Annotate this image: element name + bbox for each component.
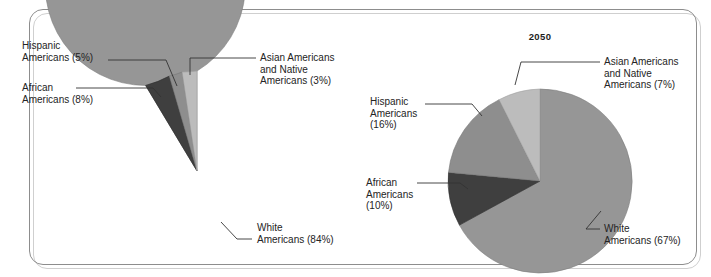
slice-asian-native-americans-2050 <box>499 89 540 181</box>
slice-hispanic-americans-2050 <box>449 100 541 181</box>
label-white-americans-2050: White Americans (67%) <box>604 223 711 246</box>
figure-two-pie-charts: · · · · · 2000 Hispanic Americans (5%) A… <box>0 0 711 277</box>
chart-title-2050: 2050 <box>500 31 580 42</box>
leader-asian-native-2050 <box>515 62 600 85</box>
slice-african-americans-2050 <box>448 172 540 225</box>
chart-panel-2050: 2050 Hispanic Americans (16%) African Am… <box>0 0 711 277</box>
label-hispanic-americans-2050: Hispanic Americans (16%) <box>370 96 460 131</box>
label-asian-native-americans-2050: Asian Americans and Native Americans (7%… <box>604 56 709 91</box>
label-african-americans-2050: African Americans (10%) <box>366 177 456 212</box>
leader-white-2050 <box>586 211 601 229</box>
